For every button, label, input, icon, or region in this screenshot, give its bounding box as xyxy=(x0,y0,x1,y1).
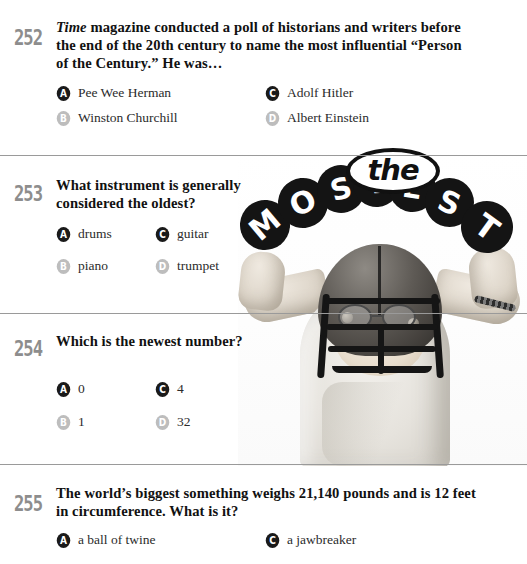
option-label: Winston Churchill xyxy=(78,110,178,126)
answer-option[interactable]: D32 xyxy=(155,414,191,430)
answer-option[interactable]: C4 xyxy=(155,381,184,397)
question-number: 254 xyxy=(14,336,42,361)
option-label: trumpet xyxy=(177,258,219,274)
answer-option[interactable]: DAlbert Einstein xyxy=(265,110,369,126)
question-text: The world’s biggest something weighs 21,… xyxy=(56,484,476,520)
option-letter-badge: B xyxy=(57,259,71,274)
option-label: a ball of twine xyxy=(78,532,156,548)
question-number: 252 xyxy=(14,25,42,50)
facemask-bar xyxy=(378,324,384,374)
mostest-photo-art: MOSTEST the xyxy=(238,148,527,466)
option-letter-badge: C xyxy=(156,227,170,242)
option-label: piano xyxy=(78,258,108,274)
answer-option[interactable]: APee Wee Herman xyxy=(56,85,171,101)
answer-option[interactable]: Cguitar xyxy=(155,226,209,242)
answer-option[interactable]: BWinston Churchill xyxy=(56,110,178,126)
quiz-page: MOSTEST the 252Time magazine conducted a… xyxy=(0,0,527,564)
option-letter-badge: D xyxy=(156,415,170,430)
answer-option[interactable]: Aa ball of twine xyxy=(56,532,156,548)
option-label: Albert Einstein xyxy=(287,110,369,126)
option-label: a jawbreaker xyxy=(287,532,356,548)
option-letter-badge: A xyxy=(57,86,71,101)
answer-option[interactable]: CAdolf Hitler xyxy=(265,85,353,101)
question-text: Time magazine conducted a poll of histor… xyxy=(56,18,476,72)
option-letter-badge: C xyxy=(266,533,280,548)
the-label: the xyxy=(367,156,418,185)
section-divider xyxy=(0,313,527,314)
answer-option[interactable]: Bpiano xyxy=(56,258,108,274)
option-label: 1 xyxy=(78,414,85,430)
option-label: drums xyxy=(78,226,112,242)
question-number: 255 xyxy=(14,491,42,516)
question-text: Which is the newest number? xyxy=(56,332,276,350)
answer-option[interactable]: Ca jawbreaker xyxy=(265,532,356,548)
option-label: guitar xyxy=(177,226,209,242)
option-label: Adolf Hitler xyxy=(287,85,353,101)
option-letter-badge: A xyxy=(57,227,71,242)
answer-option[interactable]: Dtrumpet xyxy=(155,258,219,274)
question-number: 253 xyxy=(14,181,42,206)
option-letter-badge: D xyxy=(156,259,170,274)
option-label: 32 xyxy=(177,414,191,430)
option-letter-badge: A xyxy=(57,533,71,548)
option-letter-badge: C xyxy=(266,86,280,101)
answer-option[interactable]: Adrums xyxy=(56,226,112,242)
option-letter-badge: C xyxy=(156,382,170,397)
option-letter-badge: D xyxy=(266,111,280,126)
option-letter-badge: B xyxy=(57,415,71,430)
section-divider xyxy=(0,155,527,156)
question-text: What instrument is generally considered … xyxy=(56,176,256,212)
answer-option[interactable]: B1 xyxy=(56,414,85,430)
option-letter-badge: A xyxy=(57,382,71,397)
section-divider xyxy=(0,464,527,465)
answer-option[interactable]: A0 xyxy=(56,381,85,397)
option-label: 0 xyxy=(78,381,85,397)
option-letter-badge: B xyxy=(57,111,71,126)
option-label: 4 xyxy=(177,381,184,397)
option-label: Pee Wee Herman xyxy=(78,85,171,101)
